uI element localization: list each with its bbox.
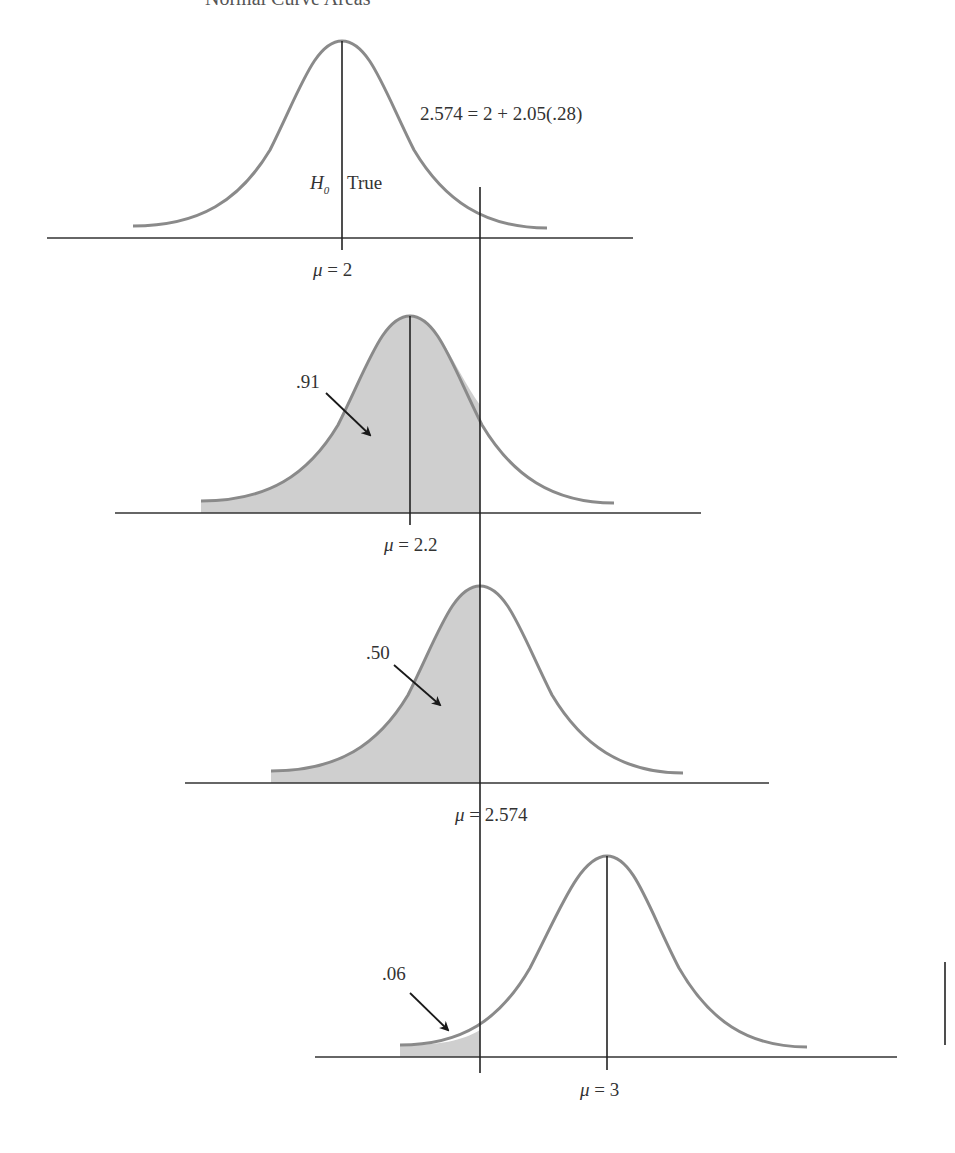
panel-h0-true: H0 True 2.574 = 2 + 2.05(.28) μ = 2 xyxy=(47,41,633,280)
arrow-icon xyxy=(410,993,448,1030)
mean-label: μ = 3 xyxy=(579,1079,619,1100)
area-label: .50 xyxy=(366,642,390,663)
true-label: True xyxy=(347,172,382,193)
figure-title: Normal Curve Areas xyxy=(205,0,371,9)
shaded-area xyxy=(271,586,480,783)
panel-mu-2-2: .91 μ = 2.2 xyxy=(115,316,701,555)
shaded-area xyxy=(201,316,480,513)
normal-curve xyxy=(400,856,807,1047)
formula-label: 2.574 = 2 + 2.05(.28) xyxy=(420,103,582,125)
mean-label: μ = 2 xyxy=(312,259,352,280)
normal-curve-areas-diagram: Normal Curve Areas H0 True 2.574 = 2 + 2… xyxy=(0,0,955,1153)
panel-mu-3: .06 μ = 3 xyxy=(315,856,897,1100)
panel-mu-2-574: .50 μ = 2.574 xyxy=(185,586,769,825)
area-label: .91 xyxy=(296,371,320,392)
normal-curve xyxy=(133,41,547,228)
area-label: .06 xyxy=(382,963,406,984)
mean-label: μ = 2.2 xyxy=(383,534,438,555)
h0-label: H0 xyxy=(309,172,330,196)
mean-label: μ = 2.574 xyxy=(454,804,528,825)
